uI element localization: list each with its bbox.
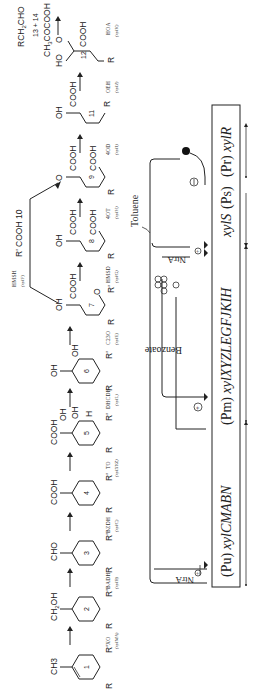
compound-3: CHO 3 RR' bbox=[49, 533, 114, 573]
svg-text:OH: OH bbox=[54, 234, 64, 247]
svg-text:R': R' bbox=[104, 351, 114, 359]
figure-rotated-stage: CH3 1 RR' XO (xylMA) CH2OH 2 RR' BADH (x… bbox=[0, 0, 258, 697]
svg-text:COOH: COOH bbox=[68, 210, 78, 236]
regulatory-lines bbox=[150, 159, 207, 583]
svg-text:COOH: COOH bbox=[49, 420, 59, 446]
svg-text:HMSH: HMSH bbox=[11, 270, 17, 287]
svg-text:(Pu) xylCMABN: (Pu) xylCMABN bbox=[219, 485, 235, 577]
svg-text:5: 5 bbox=[83, 431, 90, 435]
arrow-4 bbox=[67, 452, 73, 471]
svg-text:H: H bbox=[84, 411, 94, 417]
svg-text:12: 12 bbox=[80, 51, 87, 59]
svg-text:R: R bbox=[104, 683, 114, 689]
transcript-arrows bbox=[244, 123, 248, 586]
svg-text:(xylMA): (xylMA) bbox=[114, 632, 119, 649]
svg-text:HMSD: HMSD bbox=[105, 266, 111, 283]
svg-text:(xylL): (xylL) bbox=[114, 394, 119, 406]
arrow-3 bbox=[67, 512, 73, 531]
svg-text:(Pr) xylR: (Pr) xylR bbox=[219, 126, 235, 177]
svg-text:OH: OH bbox=[54, 298, 64, 311]
svg-text:COOH: COOH bbox=[49, 480, 59, 506]
svg-text:R: R bbox=[106, 319, 116, 325]
svg-text:(xylXYZ): (xylXYZ) bbox=[114, 459, 119, 477]
svg-text:(xylK): (xylK) bbox=[114, 24, 119, 37]
svg-text:R: R bbox=[102, 101, 112, 107]
svg-text:8: 8 bbox=[88, 239, 95, 243]
svg-text:(xylE): (xylE) bbox=[114, 332, 119, 345]
svg-text:Toluene: Toluene bbox=[129, 194, 140, 227]
svg-text:NtrA: NtrA bbox=[167, 255, 186, 265]
svg-text:(xylI): (xylI) bbox=[114, 144, 119, 155]
svg-text:(xylJ): (xylJ) bbox=[114, 81, 119, 93]
svg-text:O: O bbox=[92, 288, 102, 295]
svg-text:xylS: xylS bbox=[219, 214, 234, 238]
svg-text:R': R' bbox=[104, 473, 114, 481]
svg-text:R: R bbox=[104, 623, 114, 629]
svg-text:Benzoate: Benzoate bbox=[144, 345, 182, 356]
svg-text:R: R bbox=[104, 567, 114, 573]
svg-text:COOH: COOH bbox=[88, 210, 98, 236]
svg-text:R: R bbox=[106, 57, 116, 63]
svg-text:O: O bbox=[54, 36, 64, 43]
compound-11: OH COOH 11 R bbox=[54, 82, 112, 124]
svg-text:6: 6 bbox=[83, 369, 90, 373]
arrow-5 bbox=[67, 388, 73, 407]
svg-text:DHCDH: DHCDH bbox=[105, 388, 111, 409]
compound-2: CH2OH 2 RR' bbox=[49, 589, 114, 629]
operon-box: (Pu) xylCMABN (Pm) xylXYZLEGFJKIH xylS (… bbox=[212, 105, 240, 587]
svg-text:O: O bbox=[54, 174, 64, 181]
compound-4: COOH 4 RR' bbox=[49, 473, 114, 513]
svg-text:COOH: COOH bbox=[68, 274, 78, 300]
pm-activation: + bbox=[194, 393, 208, 411]
compound-5: COOH OHOH H 5 RR' bbox=[49, 406, 114, 453]
svg-text:COOH: COOH bbox=[78, 22, 88, 48]
svg-text:9: 9 bbox=[88, 175, 95, 179]
arrow-11 bbox=[55, 16, 61, 35]
svg-text:OEH: OEH bbox=[105, 81, 111, 93]
svg-text:CH3: CH3 bbox=[49, 658, 59, 675]
svg-text:OH: OH bbox=[58, 408, 68, 421]
svg-text:R: R bbox=[104, 447, 114, 453]
svg-text:(Ps): (Ps) bbox=[219, 186, 235, 209]
svg-text:RCH2CHO: RCH2CHO bbox=[16, 6, 27, 47]
svg-text:(xylG): (xylG) bbox=[114, 270, 119, 283]
arrow-2 bbox=[67, 568, 73, 587]
svg-text:R': R' bbox=[104, 533, 114, 541]
svg-text:OH: OH bbox=[54, 106, 64, 119]
enzyme-xo: XO bbox=[105, 636, 111, 645]
products-13-14: RCH2CHO 13 + 14 CH3COCOOH bbox=[16, 3, 53, 57]
svg-text:+: + bbox=[194, 406, 202, 410]
svg-text:(xylH): (xylH) bbox=[114, 206, 119, 219]
pathway-diagram: CH3 1 RR' XO (xylMA) CH2OH 2 RR' BADH (x… bbox=[0, 0, 258, 697]
svg-text:HOA: HOA bbox=[105, 22, 111, 35]
svg-text:C23O: C23O bbox=[105, 331, 111, 345]
ntra-ps: NtrA + bbox=[167, 241, 208, 265]
svg-text:OH: OH bbox=[70, 344, 80, 357]
svg-text:11: 11 bbox=[88, 110, 95, 117]
compound-1: CH3 1 RR' bbox=[49, 645, 114, 689]
ntra-pu: NtrA + bbox=[175, 561, 208, 585]
svg-text:R': R' bbox=[106, 285, 116, 293]
svg-text:R': R' bbox=[104, 645, 114, 653]
svg-text:4: 4 bbox=[83, 491, 90, 495]
svg-text:OH: OH bbox=[70, 406, 80, 419]
compound-6: OH OH 6 RR' bbox=[49, 344, 114, 391]
svg-text:7: 7 bbox=[88, 303, 95, 307]
toluene-effector: Toluene bbox=[129, 147, 205, 233]
svg-text:(Pm) xylXYZLEGFJKIH: (Pm) xylXYZLEGFJKIH bbox=[219, 287, 235, 425]
svg-text:OH: OH bbox=[49, 364, 59, 377]
svg-text:NtrA: NtrA bbox=[175, 575, 194, 585]
svg-text:(xylB): (xylB) bbox=[114, 576, 119, 589]
svg-text:2: 2 bbox=[83, 607, 90, 611]
svg-text:13 + 14: 13 + 14 bbox=[32, 13, 39, 37]
svg-text:COOH: COOH bbox=[68, 146, 78, 172]
svg-text:HO: HO bbox=[54, 54, 64, 67]
svg-text:COOH: COOH bbox=[68, 82, 78, 108]
svg-text:CHO: CHO bbox=[49, 542, 59, 561]
svg-text:(xylC): (xylC) bbox=[114, 519, 119, 532]
svg-text:+: + bbox=[195, 249, 201, 253]
svg-text:1: 1 bbox=[83, 665, 90, 669]
svg-text:3: 3 bbox=[83, 551, 90, 555]
arrow-1 bbox=[67, 626, 73, 645]
svg-text:CH2OH: CH2OH bbox=[49, 593, 60, 621]
